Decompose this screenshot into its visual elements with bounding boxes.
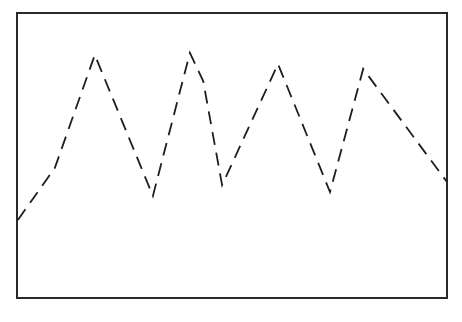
plot-frame [17,13,447,298]
line-chart [0,0,462,322]
dashed-waveform-line [18,53,447,220]
